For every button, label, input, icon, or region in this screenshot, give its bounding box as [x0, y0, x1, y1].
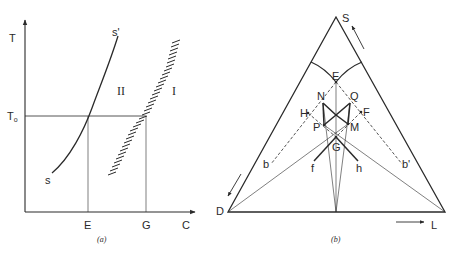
- point-q-label: Q: [350, 90, 359, 102]
- point-b-prime-label: b': [402, 158, 410, 170]
- t0-subscript: o: [14, 116, 18, 123]
- point-b-label: b: [263, 158, 269, 170]
- point-n-label: N: [317, 90, 325, 102]
- region-i-label: I: [172, 84, 176, 98]
- vertex-s-label: S: [342, 12, 349, 24]
- base-to-n-line: [323, 103, 336, 212]
- vertex-l-label: L: [431, 219, 437, 231]
- figure-b: S D L E N Q H F P M G f h b b' (b): [216, 12, 445, 244]
- d-to-m-line: [228, 124, 348, 212]
- point-f-label: F: [363, 106, 370, 118]
- hatched-boundary: [108, 40, 180, 175]
- x-mark-e: E: [84, 219, 91, 231]
- point-p-label: P: [313, 121, 320, 133]
- x-axis-label: C: [182, 219, 190, 231]
- curve-start-label: s: [45, 174, 51, 186]
- t0-label: To: [7, 110, 18, 123]
- caption-a: (a): [97, 235, 107, 244]
- figure-canvas: T To E G C s s' II I (a): [0, 0, 456, 256]
- caption-b: (b): [331, 235, 341, 244]
- solubility-curve: [52, 36, 118, 173]
- x-mark-g: G: [142, 219, 151, 231]
- point-h-small-label: h: [356, 162, 362, 174]
- arrow-s-icon: [352, 26, 364, 49]
- l-to-p-line: [324, 125, 445, 212]
- y-axis-label: T: [9, 32, 16, 44]
- curve-end-label: s': [112, 26, 120, 38]
- point-m-label: M: [350, 121, 359, 133]
- point-h-label: H: [300, 107, 308, 119]
- figure-a: T To E G C s s' II I (a): [7, 20, 195, 244]
- point-f-small-label: f: [311, 162, 315, 174]
- region-ii-label: II: [117, 84, 125, 98]
- point-g-label: G: [332, 141, 341, 153]
- vertex-d-label: D: [216, 205, 224, 217]
- point-e-label: E: [332, 70, 339, 82]
